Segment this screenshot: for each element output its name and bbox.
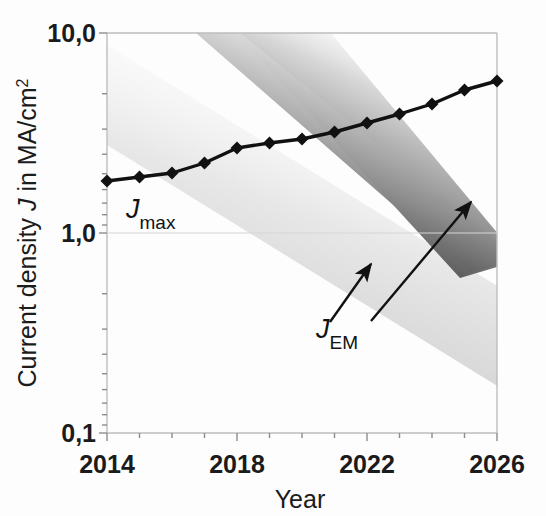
jmax-series-label: Jmax — [125, 194, 176, 233]
y-axis-title: Current density J in MA/cm2 — [13, 78, 41, 387]
y-axis-title-middle: in MA/cm — [13, 87, 41, 198]
chart-figure: 10,0 1,0 0,1 2014 2018 2022 2026 Year Cu… — [0, 0, 546, 516]
x-tick-label-2014: 2014 — [79, 450, 135, 478]
y-tick-label-0-1: 0,1 — [61, 419, 96, 447]
svg-text:Current density J in MA/cm2: Current density J in MA/cm2 — [13, 78, 41, 387]
jem-label-subscript: EM — [330, 332, 359, 353]
x-tick-label-2022: 2022 — [339, 450, 395, 478]
jem-bands-group — [107, 20, 520, 400]
jmax-label-symbol: J — [125, 194, 140, 224]
jmax-label-subscript: max — [140, 212, 176, 233]
x-axis-title: Year — [275, 485, 326, 513]
jem-label-symbol: J — [315, 314, 330, 344]
x-tick-label-2026: 2026 — [469, 450, 525, 478]
y-axis-title-prefix: Current density — [13, 211, 41, 387]
chart-svg: 10,0 1,0 0,1 2014 2018 2022 2026 Year Cu… — [0, 0, 546, 516]
y-axis-title-symbol: J — [13, 198, 41, 212]
x-axis-ticks — [107, 433, 497, 441]
y-tick-label-10: 10,0 — [47, 19, 96, 47]
y-tick-label-1: 1,0 — [61, 219, 96, 247]
y-axis-title-exponent: 2 — [14, 78, 31, 87]
jem-series-label: JEM — [315, 314, 358, 353]
x-tick-label-2018: 2018 — [209, 450, 265, 478]
y-axis-ticks — [99, 33, 107, 433]
